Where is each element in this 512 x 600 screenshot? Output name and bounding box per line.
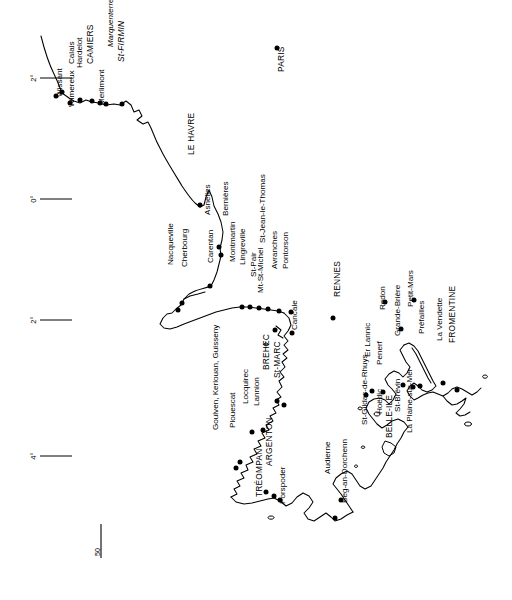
city-dot-treompan xyxy=(264,490,269,495)
city-dot-goulven-kerlouan-guisseny xyxy=(234,466,239,471)
city-label-la-vendette: La Vendette xyxy=(435,297,444,341)
city-dot-audierne xyxy=(333,516,338,521)
city-dot-plouescat xyxy=(238,460,243,465)
graticule-ticks xyxy=(40,78,72,456)
coastline-msm-inlet xyxy=(276,326,283,338)
city-dot-montmartin xyxy=(240,305,245,310)
city-label-paris: PARIS xyxy=(276,46,286,72)
island-belle-ile xyxy=(382,441,396,456)
city-label-st-marc: St-MARC xyxy=(272,341,282,378)
city-dot-carentan xyxy=(208,284,213,289)
city-label-carentan: Carentan xyxy=(206,230,215,263)
city-label-audierne: Audierne xyxy=(323,441,332,474)
city-label-merlimont: Merlimont xyxy=(97,69,106,105)
coastline-vendee xyxy=(443,396,470,416)
coastline-loire-estuary xyxy=(404,343,481,400)
scale-bar-label: 50 xyxy=(93,548,102,556)
island-glenan xyxy=(354,465,357,467)
city-dot-prefailles xyxy=(418,384,423,389)
city-dot-avranches xyxy=(277,309,282,314)
city-dot-st-marc xyxy=(282,403,287,408)
city-label-er-lannic: Er Lannic xyxy=(363,323,372,357)
city-label-le-havre: LE HAVRE xyxy=(186,112,196,155)
city-label-cherbourg: Cherbourg xyxy=(180,229,189,267)
city-label-pontorson: Pontorson xyxy=(281,232,290,269)
city-dot-camiers xyxy=(90,99,95,104)
islands-group xyxy=(264,343,487,519)
city-label-montmartin: Montmartin xyxy=(228,222,237,262)
city-dot-st-firmin xyxy=(120,102,125,107)
scale-bar-label-group: 50 xyxy=(93,548,102,556)
city-label-st-brevin: St-Brévin xyxy=(393,379,402,412)
coastline-loire-river-inner xyxy=(412,348,431,383)
city-label-locquirec: Locquirec xyxy=(241,369,250,404)
city-label-asnelles: Asnelles xyxy=(203,184,212,215)
graticule-label-tick-0: 0° xyxy=(29,195,38,202)
map-svg: CalaisWissantWimereuxHardelotCAMIERSMerl… xyxy=(0,0,512,600)
city-label-porspoder: Porspoder xyxy=(278,466,287,504)
city-dot-brehec xyxy=(275,399,280,404)
city-label-prefailles: Préfailles xyxy=(417,301,426,334)
city-label-camiers: CAMIERS xyxy=(85,24,95,64)
city-label-cancale: Cancale xyxy=(290,300,299,330)
map-container: CalaisWissantWimereuxHardelotCAMIERSMerl… xyxy=(0,0,512,600)
city-label-fromentine: FROMENTINE xyxy=(447,285,457,343)
city-dot-mt-st-michel xyxy=(273,328,278,333)
city-label-hardelot: Hardelot xyxy=(75,37,84,68)
city-dot-asnelles xyxy=(217,245,222,250)
island-yeu xyxy=(483,375,488,378)
city-dot-argenton xyxy=(272,494,277,499)
city-label-argenton: ARGENTON xyxy=(264,417,274,466)
graticule-label-tick-4w: 4° xyxy=(29,452,38,459)
island-small-2 xyxy=(361,446,365,448)
city-dot-cherbourg xyxy=(180,301,185,306)
city-label-st-jean-le-thomas: St-Jean-le-Thomas xyxy=(258,174,267,243)
city-dot-lingreville xyxy=(248,305,253,310)
city-label-treompan: TRÉOMPAN xyxy=(254,449,264,497)
city-label-redon: Redon xyxy=(378,286,387,310)
city-label-rennes: RENNES xyxy=(332,261,342,297)
city-label-st-gildas-de-rhuys: St-Gildas-de-Rhuys xyxy=(360,354,369,425)
city-dot-marquenterre xyxy=(104,102,109,107)
graticule-label-tick-2e: 2° xyxy=(29,74,38,81)
coastline-cotentin xyxy=(160,286,284,329)
island-noirmoutier xyxy=(465,422,472,426)
city-label-goulven-kerlouan-guisseny: Goulven, Kerlouan, Guisseny xyxy=(211,324,220,430)
city-label-marquenterre: Marquenterre xyxy=(106,0,115,47)
city-label-wissant: Wissant xyxy=(55,67,64,97)
city-label-nacqueville: Nacqueville xyxy=(166,223,175,265)
city-label-avranches: Avranches xyxy=(270,231,279,269)
city-label-plouescat: Plouescat xyxy=(228,392,237,428)
city-label-grande-briere: Grande-Brière xyxy=(393,284,402,336)
city-label-petit-mars: Petit-Mars xyxy=(406,270,415,307)
city-label-mt-st-michel: Mt-St-Michel xyxy=(256,247,265,293)
island-ouessant xyxy=(268,516,274,519)
city-dot-cancale xyxy=(290,331,295,336)
city-label-penerf: Penerf xyxy=(375,340,384,365)
city-dot-er-lannic xyxy=(370,389,375,394)
city-dot-hardelot xyxy=(78,98,83,103)
city-dot-le-havre xyxy=(198,203,203,208)
city-label-wimereux: Wimereux xyxy=(67,71,76,107)
city-label-la-plaine-sur-mer: La Plaine-sur-Mer xyxy=(405,368,414,433)
city-dot-locquirec xyxy=(250,430,255,435)
city-dot-fromentine xyxy=(455,388,460,393)
city-label-beg-an-dorchenn: Beg-an-Dorchenn xyxy=(340,439,349,503)
city-label-lingreville: Lingreville xyxy=(238,228,247,265)
graticule-labels-group: 2°0°2°4° xyxy=(29,74,38,459)
city-dot-st-jean-le-thomas xyxy=(266,307,271,312)
city-dot-nacqueville xyxy=(176,308,181,313)
city-dot-bernieres xyxy=(219,253,224,258)
city-label-st-firmin: St-FIRMIN xyxy=(116,20,126,62)
graticule-label-tick-2w: 2° xyxy=(29,316,38,323)
city-dot-rennes xyxy=(331,316,336,321)
city-label-hoedic: Hoëdic xyxy=(375,389,384,414)
city-dot-la-vendette xyxy=(441,381,446,386)
city-dot-st-pair xyxy=(257,306,262,311)
city-label-lannion: Lannion xyxy=(252,377,261,406)
city-label-brehec: BREHEC xyxy=(261,334,271,370)
city-label-bernieres: Bernières xyxy=(221,181,230,216)
